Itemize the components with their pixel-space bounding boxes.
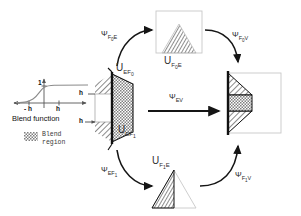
label-psi-ef1-subsub: 1 (115, 173, 118, 178)
blend-curve (16, 85, 88, 103)
blend-y-tick-label: 1 (38, 80, 42, 87)
right-vertex-group (228, 71, 281, 135)
label-psi-f0e-tail: E (114, 34, 118, 40)
label-psi-ev: ΨEV (169, 93, 183, 103)
label-u-ef0-sub: EF (123, 69, 131, 75)
label-u-ef1-sub: EF (125, 131, 133, 137)
label-psi-f1v-base: Ψ (235, 170, 242, 179)
label-psi-ef1-base: Ψ (101, 165, 108, 174)
label-psi-f0e: ΨF0E (101, 30, 117, 42)
legend-line-2: region (42, 139, 65, 147)
label-psi-f0e-base: Ψ (101, 29, 108, 38)
label-u-f0e-tail: E (178, 62, 182, 68)
label-psi-ef1: ΨEF1 (101, 166, 117, 178)
arrow-face1-to-vertex (200, 146, 238, 186)
label-psi-f0v-tail: V (245, 35, 249, 41)
bottom-face1-group (152, 170, 196, 208)
vertex-blend-core (228, 95, 252, 111)
bottom-triangle (152, 170, 174, 208)
label-u-ef1-subsub: 1 (133, 133, 136, 139)
arrow-edge-to-face1 (117, 150, 152, 186)
edge-upper-hatch (95, 74, 112, 94)
h-label-upper: h (79, 90, 83, 97)
label-psi-ef1-sub: EF (108, 170, 115, 176)
diagram-canvas: 1 - h h Blend function Blend region h h … (0, 0, 301, 216)
label-u-f0e: UF0E (164, 56, 182, 70)
blend-function-plot (14, 79, 88, 108)
label-psi-f1v-tail: V (248, 175, 252, 181)
label-psi-ev-base: Ψ (169, 92, 176, 101)
label-psi-ev-sub: EV (176, 97, 183, 103)
blend-x-tick-left-label: - h (24, 106, 32, 113)
label-u-ef0-subsub: 0 (131, 71, 134, 77)
blend-x-tick-right-label: h (56, 106, 60, 113)
label-psi-f0v: ΨF0V (232, 31, 248, 43)
label-psi-f1v: ΨF1V (235, 171, 251, 183)
label-psi-f0v-base: Ψ (232, 30, 239, 39)
label-u-f1e: UF1E (152, 156, 170, 170)
label-u-ef0: UEF0 (116, 63, 134, 77)
label-u-f1e-tail: E (166, 162, 170, 168)
top-face0-group (156, 11, 202, 53)
label-u-ef1: UEF1 (118, 125, 136, 139)
blend-function-title: Blend function (12, 115, 60, 123)
legend-line-1: Blend (42, 131, 62, 139)
diagram-svg (0, 0, 301, 216)
edge-left-core (95, 94, 112, 122)
h-label-lower: h (79, 118, 83, 125)
edge-lower-hatch (95, 122, 112, 142)
arrow-edge-to-face0 (117, 30, 152, 66)
blend-region-swatch (24, 132, 38, 141)
